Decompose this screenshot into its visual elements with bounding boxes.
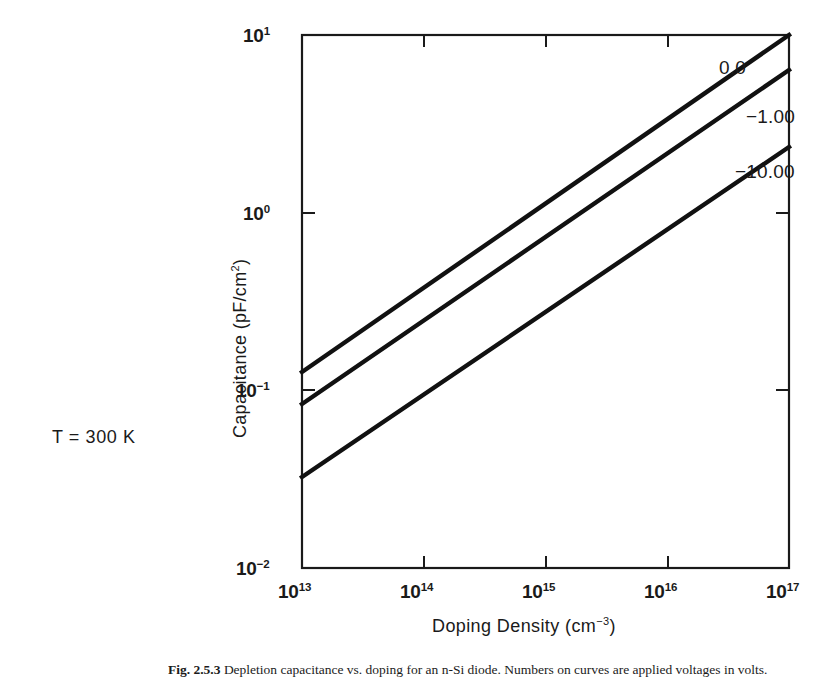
y-tick-label-1: 100	[243, 204, 270, 223]
y-axis-ticks-right	[776, 213, 789, 390]
caption-text: Depletion capacitance vs. doping for an …	[224, 662, 768, 677]
curve-label-1: −1.00	[746, 107, 795, 126]
x-axis-title: Doping Density (cm−3)	[432, 617, 616, 635]
curve-0.0	[302, 35, 789, 372]
x-tick-label-3: 1016	[644, 582, 677, 601]
plot-frame	[302, 35, 789, 568]
y-tick-label-0: 101	[243, 26, 270, 45]
x-axis-ticks-top	[424, 35, 668, 47]
x-tick-label-2: 1015	[522, 582, 555, 601]
x-tick-label-0: 1013	[278, 582, 311, 601]
y-tick-label-3: 10−2	[236, 559, 269, 578]
x-tick-label-1: 1014	[400, 582, 433, 601]
y-axis-title: Capacitance (pF/cm2)	[206, 170, 236, 440]
temperature-annotation: T = 300 K	[52, 428, 136, 446]
curve-minus-1.00	[302, 70, 789, 404]
curve-label-0: 0.0	[719, 58, 746, 77]
x-tick-label-4: 1017	[766, 582, 799, 601]
figure-caption: Fig. 2.5.3 Depletion capacitance vs. dop…	[168, 661, 808, 678]
curve-minus-10.00	[302, 147, 789, 477]
x-axis-ticks-bottom	[424, 556, 668, 568]
capacitance-vs-doping-chart	[0, 0, 837, 678]
caption-label: Fig. 2.5.3	[168, 662, 221, 677]
curve-label-2: −10.00	[735, 162, 795, 181]
figure-container: 101 100 10−1 10−2 1013 1014 1015 1016 10…	[0, 0, 837, 678]
